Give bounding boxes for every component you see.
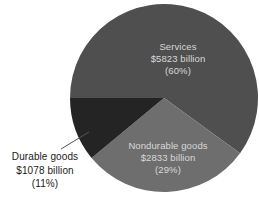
pie-chart: Services $5823 billion (60%) Nondurable …	[0, 0, 259, 198]
slice-label-durable-value: $1078 billion	[1, 164, 89, 178]
slice-label-durable-percent: (11%)	[1, 177, 89, 191]
slice-label-durable: Durable goods $1078 billion (11%)	[1, 150, 89, 191]
slice-label-durable-name: Durable goods	[1, 150, 89, 164]
